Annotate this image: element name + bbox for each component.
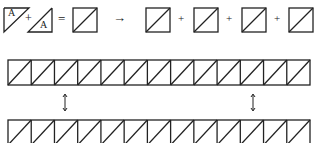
double-arrow-right-icon — [251, 94, 255, 111]
arrow-icon: → — [113, 10, 126, 26]
output-square-3 — [242, 8, 266, 32]
output-square-1 — [146, 8, 170, 32]
plus-sign-3: + — [226, 12, 232, 24]
plus-sign-1: + — [25, 11, 32, 26]
plus-sign-2: + — [178, 12, 184, 24]
equals-sign: = — [58, 11, 65, 27]
piece-label-2: A — [40, 19, 47, 30]
bottom-strip — [8, 120, 310, 143]
output-square-4 — [289, 8, 313, 32]
plus-sign-4: + — [274, 12, 280, 24]
top-strip — [8, 60, 310, 85]
double-arrow-left-icon — [63, 94, 67, 111]
output-square-2 — [194, 8, 218, 32]
piece-label-1: A — [8, 7, 15, 18]
result-square — [73, 8, 97, 32]
